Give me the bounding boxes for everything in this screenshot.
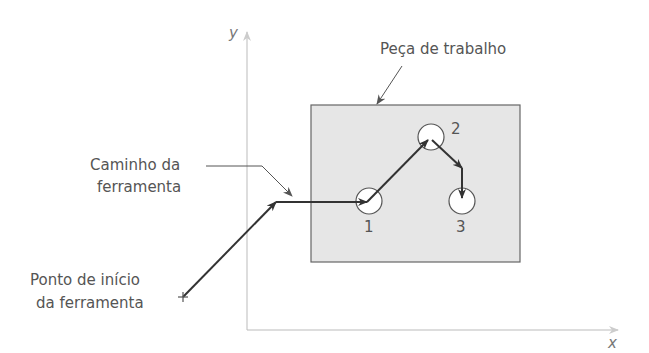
tool-path-leader <box>206 166 292 196</box>
workpiece-rect <box>311 105 520 262</box>
tool-path-label-line1: Caminho da <box>90 156 180 175</box>
y-axis-label: y <box>229 24 238 42</box>
workpiece-leader <box>377 66 402 104</box>
point-3-label: 3 <box>456 218 466 236</box>
tool-path-label-line2: ferramenta <box>97 178 181 197</box>
point-2-label: 2 <box>451 120 461 138</box>
point-1-label: 1 <box>364 218 374 236</box>
workpiece-label: Peça de trabalho <box>380 40 506 59</box>
x-axis-label: x <box>608 334 617 352</box>
start-label-line2: da ferramenta <box>36 294 144 313</box>
start-label-line1: Ponto de início <box>30 271 140 290</box>
